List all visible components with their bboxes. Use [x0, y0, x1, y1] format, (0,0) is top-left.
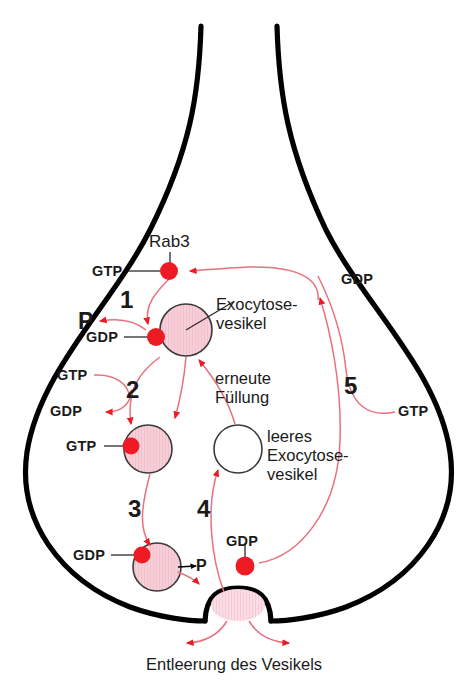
label-gtp-step5: GTP — [398, 404, 428, 419]
step-number-5: 5 — [344, 374, 357, 398]
step-number-2: 2 — [126, 378, 139, 402]
arrow-step2-branch — [175, 357, 186, 418]
label-gtp-vesicle2: GTP — [66, 439, 96, 454]
diagram-vector-layer — [0, 0, 474, 685]
step-number-4: 4 — [197, 497, 210, 521]
arrow-step4-to-empty-vesicle — [211, 470, 224, 592]
label-erneute-fuellung: erneute Füllung — [215, 369, 271, 407]
arrow-release-right — [249, 621, 289, 643]
dot-gdp-step3 — [134, 547, 151, 564]
step-number-1: 1 — [120, 288, 133, 312]
dot-gtp-vesicle — [123, 438, 140, 455]
label-gtp-rab3: GTP — [92, 264, 122, 279]
label-leeres-exocytose-vesikel: leeres Exocytose- vesikel — [267, 427, 349, 484]
label-p-step3: P — [196, 558, 207, 574]
label-gdp-step2-out: GDP — [50, 404, 82, 419]
fusion-pore-vesicle — [211, 589, 265, 621]
dot-gdp-step1 — [147, 328, 165, 346]
label-exocytose-vesikel: Exocytose- vesikel — [216, 295, 298, 333]
arrow-step2-gtp-in — [94, 375, 130, 398]
diagram-canvas: Rab3 GTP GDP GTP GDP GTP GDP GDP GDP GTP… — [0, 0, 474, 685]
arrow-step3-p-black — [178, 566, 196, 567]
label-gdp-pore: GDP — [226, 534, 258, 549]
label-gtp-step2-in: GTP — [57, 368, 87, 383]
arrow-step3-dock — [142, 474, 150, 545]
dot-gdp-pore — [236, 557, 255, 576]
label-p-step1: P — [78, 310, 93, 333]
arrow-release-left — [187, 621, 227, 643]
step-number-3: 3 — [128, 497, 141, 521]
release-arrows — [187, 621, 289, 643]
label-gdp-step3: GDP — [73, 548, 105, 563]
label-rab3: Rab3 — [149, 233, 190, 250]
label-entleerung-des-vesikels: Entleerung des Vesikels — [146, 656, 322, 673]
label-gdp-step5: GDP — [341, 272, 373, 287]
leeres-exocytose-vesikel — [214, 425, 262, 473]
dot-gtp-rab3 — [160, 262, 178, 280]
